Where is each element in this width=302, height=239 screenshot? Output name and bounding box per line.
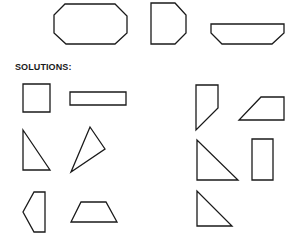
puzzle-octagon (54, 4, 127, 44)
solution-quad-right (196, 85, 218, 130)
solution-small-right-triangle (197, 191, 232, 226)
solution-large-right-triangle (197, 140, 238, 180)
solution-tall-rectangle (252, 139, 273, 180)
puzzle-shapes (54, 3, 284, 44)
solution-trapezoid-bottom (71, 202, 117, 222)
solution-square (23, 84, 50, 112)
puzzle-canvas (0, 0, 302, 239)
solution-slanted-triangle (71, 127, 105, 172)
solution-right-triangle-left (23, 130, 50, 170)
puzzle-flat-hexagon (211, 24, 284, 44)
solution-long-rectangle (70, 92, 126, 105)
solution-shapes (23, 84, 284, 232)
solution-trapezoid-right (239, 97, 284, 120)
solutions-heading: SOLUTIONS: (15, 62, 72, 72)
solution-pentagon (23, 192, 45, 232)
puzzle-d-shape (151, 3, 186, 44)
